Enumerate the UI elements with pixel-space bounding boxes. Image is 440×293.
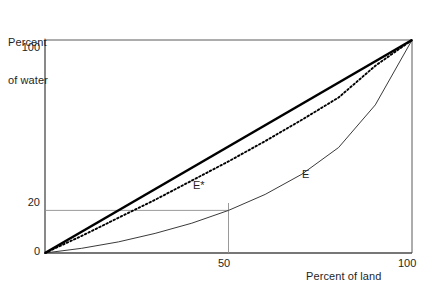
y-axis-title-line2: of water [8,74,48,87]
plot-area [0,0,440,293]
y-axis-title: Percent of water [8,11,48,111]
y-tick-label-0: 0 [18,245,40,257]
curve-label-e: E [302,168,309,180]
x-tick-label-50: 50 [218,257,230,269]
x-tick-label-100: 100 [398,257,416,269]
lorenz-curve-figure: Percent of water Percent of land 100 20 … [0,0,440,293]
y-tick-label-20: 20 [18,196,40,208]
x-axis-title: Percent of land [306,270,382,283]
curve-label-e-star: E* [193,179,205,191]
y-tick-label-100: 100 [18,41,40,53]
